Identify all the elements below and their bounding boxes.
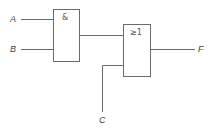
and-gate: & <box>54 10 80 62</box>
and-gate-symbol: & <box>62 13 68 22</box>
input-label-c: C <box>99 115 106 125</box>
output-label-f: F <box>198 44 204 54</box>
wire-c <box>103 66 124 113</box>
or-gate: ≥1 <box>124 25 151 77</box>
or-gate-symbol: ≥1 <box>130 28 142 37</box>
input-label-b: B <box>10 44 16 54</box>
input-label-a: A <box>9 14 16 24</box>
logic-circuit-diagram: A B & ≥1 C F <box>0 0 217 130</box>
